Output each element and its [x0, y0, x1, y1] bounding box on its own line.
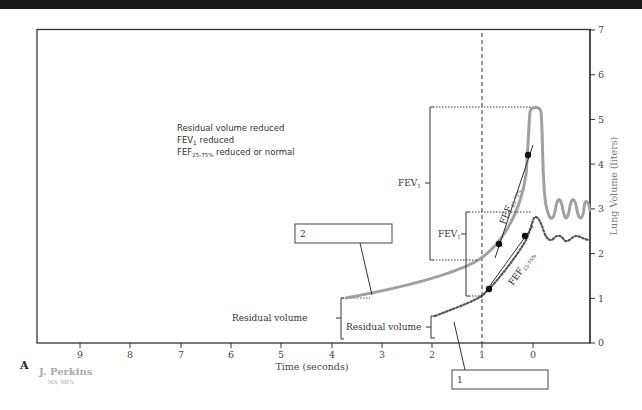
callout-1-label: 1 — [457, 375, 463, 385]
residual-volume-normal-bracket — [336, 298, 344, 339]
svg-text:3: 3 — [598, 203, 604, 214]
callout-2-label: 2 — [300, 229, 306, 239]
svg-text:1: 1 — [479, 349, 485, 360]
x-axis-tick-labels: 9 8 7 6 5 4 3 2 1 0 — [77, 349, 536, 360]
svg-text:FEF25-75% reduced or normal: FEF25-75% reduced or normal — [177, 147, 295, 158]
svg-text:9: 9 — [77, 349, 83, 360]
restrictive-curve — [435, 217, 590, 316]
residual-volume-restrictive-bracket — [426, 316, 435, 338]
callout-box-1[interactable] — [452, 370, 548, 389]
callout-box-2[interactable] — [295, 224, 392, 243]
x-axis-ticks — [80, 343, 533, 348]
svg-text:4: 4 — [329, 349, 335, 360]
panel-label: A — [19, 359, 29, 372]
fef-point-75-normal — [525, 152, 531, 158]
fev1-normal-label: FEV1 — [398, 178, 421, 189]
svg-text:7: 7 — [598, 24, 604, 35]
y-axis-tick-labels: 0 1 2 3 4 5 6 7 — [598, 24, 604, 348]
fef-point-25-restrictive — [486, 286, 492, 292]
fef-point-75-restrictive — [522, 233, 528, 239]
svg-text:6: 6 — [598, 69, 604, 80]
svg-text:5: 5 — [598, 114, 604, 125]
svg-text:FEV1 reduced: FEV1 reduced — [177, 135, 234, 146]
y-axis-ticks — [590, 30, 595, 343]
y-axis-label: Lung Volume (liters) — [608, 137, 619, 236]
svg-text:2: 2 — [429, 349, 435, 360]
fef-point-25-normal — [496, 241, 502, 247]
svg-text:Residual volume reduced: Residual volume reduced — [177, 123, 284, 133]
plot-frame — [37, 30, 590, 344]
svg-text:2: 2 — [598, 248, 604, 259]
spirometry-diagram: 0 1 2 3 4 5 6 7 Lung Volume (liters) 9 8… — [0, 0, 642, 410]
callout-1-leader — [454, 322, 465, 370]
svg-text:8: 8 — [127, 349, 133, 360]
svg-text:1: 1 — [598, 293, 604, 304]
svg-text:6: 6 — [228, 349, 234, 360]
x-axis-label: Time (seconds) — [275, 361, 348, 372]
signature-name: J. Perkins — [38, 366, 93, 377]
svg-text:0: 0 — [598, 337, 604, 348]
svg-text:4: 4 — [598, 159, 604, 170]
svg-text:3: 3 — [379, 349, 385, 360]
svg-text:0: 0 — [530, 349, 536, 360]
residual-volume-normal-label: Residual volume — [232, 313, 307, 323]
svg-text:5: 5 — [278, 349, 284, 360]
svg-text:7: 7 — [178, 349, 184, 360]
findings-notes: Residual volume reduced FEV1 reduced FEF… — [177, 123, 295, 158]
residual-volume-restrictive-label: Residual volume — [346, 322, 421, 332]
fev1-restrictive-label: FEV1 — [438, 229, 461, 240]
callout-2-leader — [360, 243, 372, 295]
signature-credentials: MS, MFA — [48, 379, 75, 385]
